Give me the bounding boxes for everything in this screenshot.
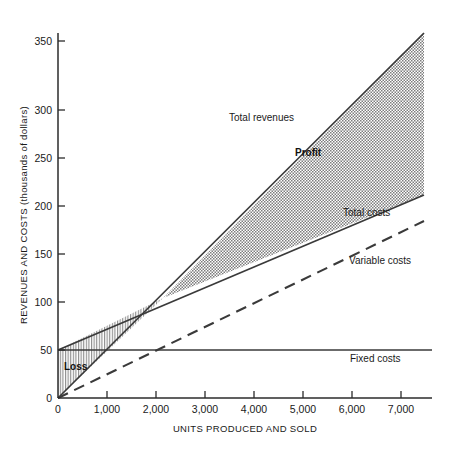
y-tick-label-250: 250 — [34, 152, 52, 164]
y-tick-label-200: 200 — [34, 200, 52, 212]
x-tick-label-1000: 1,000 — [94, 403, 120, 415]
y-tick-label-50: 50 — [40, 344, 52, 356]
label-total-costs: Total costs — [343, 207, 390, 218]
break-even-chart: 0 50 100 150 200 250 300 350 0 1,000 2,0… — [0, 0, 458, 453]
y-tick-label-300: 300 — [34, 104, 52, 116]
label-fixed-costs: Fixed costs — [350, 353, 401, 364]
y-tick-label-150: 150 — [34, 248, 52, 260]
x-tick-label-3000: 3,000 — [192, 403, 218, 415]
x-tick-label-7000: 7,000 — [388, 403, 414, 415]
x-tick-label-4000: 4,000 — [241, 403, 267, 415]
x-tick-label-0: 0 — [55, 403, 61, 415]
x-tick-label-2000: 2,000 — [143, 403, 169, 415]
y-tick-label-0: 0 — [46, 392, 52, 404]
x-tick-label-5000: 5,000 — [290, 403, 316, 415]
chart-canvas: 0 50 100 150 200 250 300 350 0 1,000 2,0… — [0, 0, 458, 453]
y-axis-title: REVENUES AND COSTS (thousands of dollars… — [18, 106, 29, 324]
label-total-revenues: Total revenues — [229, 112, 294, 123]
label-loss: Loss — [64, 361, 88, 372]
x-tick-label-6000: 6,000 — [339, 403, 365, 415]
x-axis-title: UNITS PRODUCED AND SOLD — [173, 423, 317, 434]
label-profit: Profit — [295, 147, 322, 158]
y-tick-label-100: 100 — [34, 296, 52, 308]
y-tick-label-350: 350 — [34, 35, 52, 47]
label-variable-costs: Variable costs — [349, 255, 411, 266]
